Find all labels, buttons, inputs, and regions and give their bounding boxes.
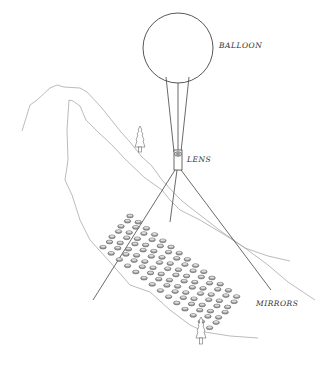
hill-ridge-front <box>69 100 290 261</box>
balloon-label: BALLOON <box>219 41 262 50</box>
lens <box>174 150 182 170</box>
hill-slope-left <box>65 100 258 338</box>
tree-upper <box>135 126 145 152</box>
mirrors-label: MIRRORS <box>256 299 298 308</box>
lens-label: LENS <box>187 155 211 164</box>
tethers <box>166 77 189 152</box>
balloon <box>143 13 213 83</box>
diagram-canvas <box>0 0 328 372</box>
